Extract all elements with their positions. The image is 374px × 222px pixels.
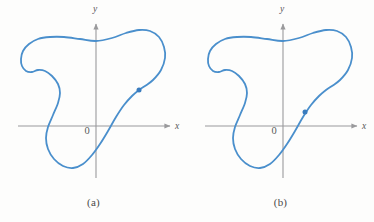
curve-path bbox=[21, 30, 165, 168]
x-axis-label: x bbox=[361, 121, 367, 131]
plot-a: y x 0 bbox=[0, 0, 187, 196]
curve-point-marker bbox=[303, 110, 308, 115]
origin-label: 0 bbox=[271, 125, 276, 136]
origin-label: 0 bbox=[84, 125, 89, 136]
y-axis-label: y bbox=[279, 4, 285, 14]
panel-a: y x 0 (a) bbox=[0, 0, 187, 222]
panel-b-caption: (b) bbox=[187, 196, 374, 208]
plot-b: y x 0 bbox=[187, 0, 374, 196]
y-axis-label: y bbox=[92, 4, 98, 14]
curve-path bbox=[208, 30, 352, 168]
x-axis-label: x bbox=[174, 121, 180, 131]
curve-point-marker bbox=[137, 88, 142, 93]
panel-b: y x 0 (b) bbox=[187, 0, 374, 222]
panel-a-caption: (a) bbox=[0, 196, 187, 208]
figure-container: y x 0 (a) y x 0 (b) bbox=[0, 0, 374, 222]
